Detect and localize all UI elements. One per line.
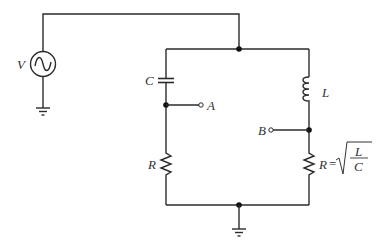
inductor-icon — [303, 77, 309, 106]
terminal-b-label: B — [258, 124, 266, 137]
source-label: V — [17, 58, 25, 71]
capacitor-label: C — [145, 74, 154, 87]
capacitor-icon — [158, 79, 174, 83]
resistor-right-icon — [304, 150, 314, 178]
fraction-denominator: C — [354, 160, 363, 173]
ground-icon-bottom — [232, 229, 246, 236]
ac-source-icon — [31, 52, 56, 77]
terminal-a-label: A — [207, 99, 215, 112]
terminal-b[interactable] — [269, 128, 273, 132]
resistor-left-label: R — [148, 158, 156, 171]
junction-top — [236, 46, 242, 52]
equals-sign: = — [329, 157, 336, 170]
circuit-schematic — [0, 0, 378, 248]
inductor-label: L — [322, 86, 329, 99]
circuit-diagram: V C A L B R R = L C — [0, 0, 378, 248]
wire-top — [43, 14, 239, 52]
terminal-a[interactable] — [199, 103, 203, 107]
resistor-left-icon — [161, 150, 171, 178]
ground-icon-source — [36, 108, 50, 115]
resistor-right-label: R — [319, 158, 327, 171]
fraction-numerator: L — [355, 145, 362, 158]
